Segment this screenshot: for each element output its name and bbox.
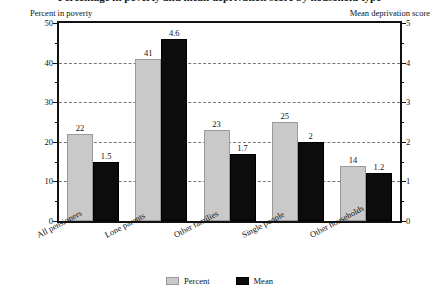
gridline xyxy=(59,102,400,103)
right-axis-tick-label: 3 xyxy=(406,97,410,107)
right-axis-tick-label: 2 xyxy=(406,137,410,147)
legend-item-percent: Percent xyxy=(166,276,210,286)
left-axis-tick xyxy=(53,181,59,182)
bar-mean xyxy=(230,154,256,221)
bar-mean xyxy=(298,142,324,221)
bar-value-label: 1.2 xyxy=(374,162,385,172)
gridline xyxy=(59,142,400,143)
left-axis-tick xyxy=(53,142,59,143)
left-axis-tick xyxy=(53,23,59,24)
left-axis-tick-label: 50 xyxy=(45,18,54,28)
legend-swatch-percent xyxy=(166,277,179,285)
bar-value-label: 22 xyxy=(76,123,85,133)
right-axis-minor-tick xyxy=(400,82,404,83)
left-axis-caption: Percent in poverty xyxy=(30,8,92,18)
right-axis-minor-tick xyxy=(400,43,404,44)
right-axis-tick-label: 1 xyxy=(406,176,410,186)
left-axis-minor-tick xyxy=(55,201,59,202)
chart-legend: Percent Mean xyxy=(0,276,439,286)
left-axis-minor-tick xyxy=(55,43,59,44)
left-axis-minor-tick xyxy=(55,82,59,83)
bar-value-label: 23 xyxy=(212,119,221,129)
right-axis-tick-label: 5 xyxy=(406,18,410,28)
bar-mean xyxy=(366,173,392,221)
bar-value-label: 4.6 xyxy=(169,28,180,38)
bar-percent xyxy=(272,122,298,221)
left-axis-tick xyxy=(53,63,59,64)
left-axis-tick xyxy=(53,102,59,103)
bar-mean xyxy=(93,162,119,221)
left-axis-tick-label: 10 xyxy=(45,176,54,186)
left-axis-tick-label: 20 xyxy=(45,137,54,147)
bar-value-label: 25 xyxy=(280,111,289,121)
right-axis-minor-tick xyxy=(400,162,404,163)
plot-area: 221.5414.6231.7252141.2 0102030405001234… xyxy=(57,21,402,223)
bar-value-label: 14 xyxy=(349,155,358,165)
chart-title: Percentage in poverty and mean deprivati… xyxy=(58,0,381,3)
right-axis-minor-tick xyxy=(400,201,404,202)
bar-mean xyxy=(161,39,187,221)
right-axis-tick-label: 0 xyxy=(406,216,410,226)
legend-swatch-mean xyxy=(236,277,249,285)
right-axis-minor-tick xyxy=(400,122,404,123)
bar-value-label: 2 xyxy=(309,131,313,141)
left-axis-tick-label: 40 xyxy=(45,58,54,68)
bar-value-label: 1.7 xyxy=(237,143,248,153)
legend-item-mean: Mean xyxy=(236,276,273,286)
bar-value-label: 1.5 xyxy=(101,151,112,161)
bar-value-label: 41 xyxy=(144,48,153,58)
left-axis-minor-tick xyxy=(55,162,59,163)
bar-percent xyxy=(67,134,93,221)
legend-label-percent: Percent xyxy=(184,276,210,286)
legend-label-mean: Mean xyxy=(254,276,273,286)
plot-inner: 221.5414.6231.7252141.2 xyxy=(59,23,400,221)
right-axis-tick-label: 4 xyxy=(406,58,410,68)
left-axis-tick-label: 30 xyxy=(45,97,54,107)
bar-percent xyxy=(204,130,230,221)
chart-title-strip: Percentage in poverty and mean deprivati… xyxy=(0,0,439,7)
bar-percent xyxy=(135,59,161,221)
left-axis-minor-tick xyxy=(55,122,59,123)
gridline xyxy=(59,63,400,64)
chart-container: Percentage in poverty and mean deprivati… xyxy=(0,0,439,297)
right-axis-caption: Mean deprivation score xyxy=(350,8,430,18)
